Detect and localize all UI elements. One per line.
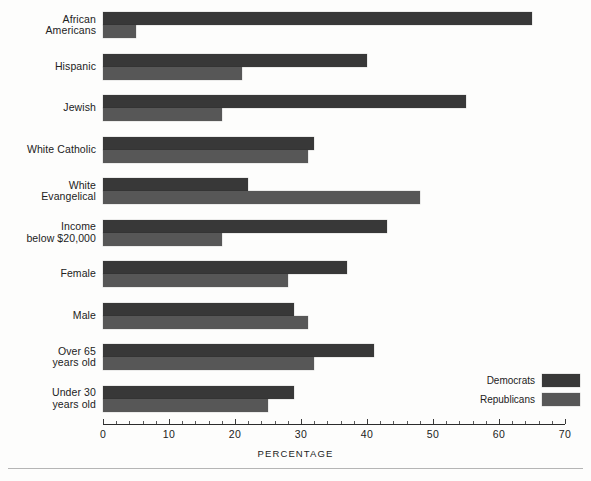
bar-group xyxy=(103,54,565,81)
x-axis-tick-label: 40 xyxy=(361,428,373,440)
x-axis-tick-major xyxy=(565,419,566,424)
x-axis-tick-minor xyxy=(209,421,210,424)
category-label-line: years old xyxy=(0,399,96,411)
bar-group xyxy=(103,303,565,330)
legend-swatch xyxy=(542,374,580,387)
x-axis-tick-minor xyxy=(341,421,342,424)
bar-republicans-over-65-years-old xyxy=(103,357,314,370)
x-axis-tick-minor xyxy=(261,421,262,424)
bar-democrats-african-americans xyxy=(103,12,532,25)
category-label: Incomebelow $20,000 xyxy=(0,221,96,244)
bar-republicans-income-below-20-000 xyxy=(103,233,222,246)
category-label-line: Male xyxy=(0,310,96,322)
bar-democrats-female xyxy=(103,261,347,274)
category-label: Over 65years old xyxy=(0,346,96,369)
category-label: White Catholic xyxy=(0,144,96,156)
category-label-line: Evangelical xyxy=(0,191,96,203)
legend: DemocratsRepublicans xyxy=(455,372,580,410)
bar-republicans-african-americans xyxy=(103,25,136,38)
x-axis-tick-minor xyxy=(354,421,355,424)
x-axis-tick-major xyxy=(169,419,170,424)
x-axis-tick-minor xyxy=(393,421,394,424)
bar-group xyxy=(103,12,565,39)
x-axis-tick-minor xyxy=(182,421,183,424)
x-axis-tick-minor xyxy=(327,421,328,424)
x-axis-tick-major xyxy=(103,419,104,424)
x-axis-tick-major xyxy=(433,419,434,424)
bar-democrats-white-evangelical xyxy=(103,178,248,191)
bar-republicans-male xyxy=(103,316,308,329)
category-label: AfricanAmericans xyxy=(0,14,96,37)
category-label-line: Female xyxy=(0,268,96,280)
bar-democrats-hispanic xyxy=(103,54,367,67)
bar-democrats-over-65-years-old xyxy=(103,344,374,357)
bar-democrats-jewish xyxy=(103,95,466,108)
x-axis-tick-label: 70 xyxy=(559,428,571,440)
footer-divider xyxy=(8,468,583,469)
x-axis-tick-minor xyxy=(539,421,540,424)
category-axis-labels: AfricanAmericansHispanicJewishWhite Cath… xyxy=(0,8,96,423)
category-label-line: Jewish xyxy=(0,102,96,114)
category-label: Jewish xyxy=(0,102,96,114)
category-label-line: Americans xyxy=(0,25,96,37)
bar-democrats-male xyxy=(103,303,294,316)
x-axis-tick-minor xyxy=(473,421,474,424)
x-axis-tick-major xyxy=(499,419,500,424)
category-label: Male xyxy=(0,310,96,322)
x-axis-tick-label: 60 xyxy=(493,428,505,440)
x-axis-tick-minor xyxy=(248,421,249,424)
category-label-line: years old xyxy=(0,357,96,369)
category-label-line: below $20,000 xyxy=(0,233,96,245)
bar-republicans-white-evangelical xyxy=(103,191,420,204)
x-axis-tick-label: 50 xyxy=(427,428,439,440)
category-label: Under 30years old xyxy=(0,387,96,410)
bar-republicans-white-catholic xyxy=(103,150,308,163)
x-axis-tick-minor xyxy=(459,421,460,424)
plot-area xyxy=(103,8,565,423)
legend-item: Republicans xyxy=(455,391,580,408)
x-axis-tick-major xyxy=(367,419,368,424)
x-axis-title: PERCENTAGE xyxy=(0,448,591,459)
x-axis-tick-minor xyxy=(407,421,408,424)
category-label-line: White Catholic xyxy=(0,144,96,156)
legend-label: Republicans xyxy=(480,394,535,405)
x-axis-tick-minor xyxy=(552,421,553,424)
x-axis-tick-minor xyxy=(156,421,157,424)
x-axis-tick-label: 0 xyxy=(100,428,106,440)
x-axis-tick-minor xyxy=(129,421,130,424)
category-label-line: Hispanic xyxy=(0,61,96,73)
x-axis-tick-minor xyxy=(380,421,381,424)
bar-group xyxy=(103,344,565,371)
x-axis-tick-minor xyxy=(486,421,487,424)
bar-democrats-income-below-20-000 xyxy=(103,220,387,233)
x-axis-tick-minor xyxy=(314,421,315,424)
x-axis-tick-label: 10 xyxy=(163,428,175,440)
category-label: Female xyxy=(0,268,96,280)
x-axis-tick-minor xyxy=(512,421,513,424)
x-axis-tick-major xyxy=(301,419,302,424)
x-axis-tick-minor xyxy=(275,421,276,424)
x-axis-tick-label: 30 xyxy=(295,428,307,440)
bar-republicans-hispanic xyxy=(103,67,242,80)
x-axis-tick-minor xyxy=(195,421,196,424)
x-axis-tick-minor xyxy=(446,421,447,424)
category-label-line: Under 30 xyxy=(0,387,96,399)
x-axis-tick-minor xyxy=(420,421,421,424)
bar-republicans-female xyxy=(103,274,288,287)
x-axis-tick-label: 20 xyxy=(229,428,241,440)
bar-group xyxy=(103,220,565,247)
bar-group xyxy=(103,261,565,288)
bar-group xyxy=(103,178,565,205)
x-axis-tick-major xyxy=(235,419,236,424)
bar-group xyxy=(103,137,565,164)
x-axis-line xyxy=(103,424,565,425)
legend-item: Democrats xyxy=(455,372,580,389)
x-axis-tick-minor xyxy=(116,421,117,424)
bar-group xyxy=(103,95,565,122)
legend-label: Democrats xyxy=(487,375,535,386)
bar-democrats-white-catholic xyxy=(103,137,314,150)
x-axis-tick-minor xyxy=(288,421,289,424)
x-axis-tick-minor xyxy=(143,421,144,424)
bar-democrats-under-30-years-old xyxy=(103,386,294,399)
bar-republicans-jewish xyxy=(103,108,222,121)
